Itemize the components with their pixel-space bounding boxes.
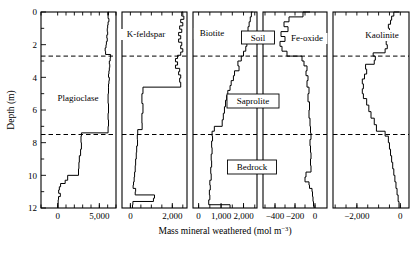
panel-kaolinite: −2,0000	[333, 12, 409, 221]
ytick-label: 10	[28, 171, 38, 181]
zone-label-text: Bedrock	[237, 162, 268, 172]
panel-label-plagioclase: Plagioclase	[58, 93, 99, 103]
ytick-label: 0	[33, 7, 38, 17]
zone-label-text: Soil	[251, 33, 266, 43]
ytick-label: 4	[33, 73, 38, 83]
panel-frame-plagioclase	[41, 12, 116, 208]
panel-plagioclase: 05,000024681012	[28, 7, 116, 221]
panel-label-group-biotite: Biotite	[194, 28, 230, 39]
xtick-label: 2,000	[162, 211, 183, 221]
zone-label-bedrock: Bedrock	[228, 160, 277, 174]
data-curve-kaolinite	[362, 12, 399, 208]
ytick-label: 2	[33, 40, 38, 50]
ytick-label: 8	[33, 138, 38, 148]
xtick-label: 0	[55, 211, 60, 221]
panel-label-group-kaolinite: Kaolinite	[359, 30, 404, 41]
panel-label-group-k-feldspar: K-feldspar	[121, 29, 171, 40]
panel-label-k-feldspar: K-feldspar	[127, 29, 165, 39]
panel-label-biotite: Biotite	[200, 28, 225, 38]
xtick-label: 5,000	[89, 211, 110, 221]
data-curve-k-feldspar	[132, 12, 183, 208]
x-axis-title-group: Mass mineral weathered (mol m−3)	[158, 225, 291, 238]
zone-label-text: Saprolite	[237, 96, 270, 106]
x-axis-title: Mass mineral weathered (mol m−3)	[158, 225, 291, 238]
y-axis-title: Depth (m)	[6, 90, 17, 129]
xtick-label: −2,000	[344, 211, 370, 221]
xtick-label: 0	[398, 211, 403, 221]
data-curve-plagioclase	[58, 12, 111, 208]
panel-frame-k-feldspar	[122, 12, 187, 208]
mineral-weathering-depth-profile-chart: 05,00002468101202,00001,0002,000−400−200…	[0, 0, 417, 254]
ytick-label: 12	[28, 203, 37, 213]
xtick-label: −200	[286, 211, 305, 221]
figure-root: 05,00002468101202,00001,0002,000−400−200…	[0, 0, 417, 254]
ytick-label: 6	[33, 105, 38, 115]
panel-k-feldspar: 02,000	[122, 12, 187, 221]
panel-label-group-fe-oxide: Fe-oxide	[287, 33, 328, 44]
zone-label-soil: Soil	[242, 31, 275, 44]
xtick-label: 0	[313, 211, 318, 221]
panel-label-kaolinite: Kaolinite	[365, 30, 399, 40]
panel-label-fe-oxide: Fe-oxide	[291, 33, 323, 43]
xtick-label: 1,000	[211, 211, 232, 221]
xtick-label: −400	[266, 211, 285, 221]
y-axis-title-group: Depth (m)	[6, 90, 17, 129]
xtick-label: 0	[128, 211, 133, 221]
xtick-label: 0	[196, 211, 201, 221]
xtick-label: 2,000	[233, 211, 254, 221]
zone-label-saprolite: Saprolite	[227, 94, 279, 108]
panel-label-group-plagioclase: Plagioclase	[51, 93, 106, 104]
panel-frame-kaolinite	[333, 12, 409, 208]
